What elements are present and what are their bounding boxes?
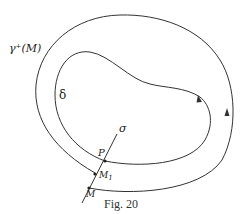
figure-caption: Fig. 20 (0, 197, 242, 212)
point-m1-label: M1 (98, 170, 113, 182)
inner-cycle-curve (55, 52, 210, 165)
point-m1-label-sub: 1 (108, 174, 112, 182)
outer-orbit-label: γ⁺(M) (9, 42, 41, 55)
outer-orbit-curve (36, 15, 233, 192)
point-p-label: P (97, 147, 105, 158)
diagram: γ⁺(M) δ σ P M1 M (0, 0, 242, 214)
outer-orbit-arrow-icon (225, 108, 230, 116)
point-p-dot (103, 159, 106, 162)
inner-cycle-label: δ (59, 88, 66, 102)
transversal-label: σ (119, 122, 127, 135)
point-m1-dot (93, 172, 96, 175)
